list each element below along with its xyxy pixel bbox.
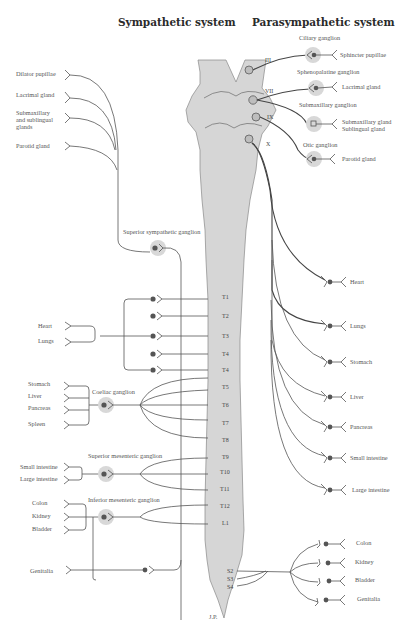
- svg-text:T12: T12: [220, 503, 230, 509]
- sphenopalatine-group: Sphenopalatine ganglion Lacrimal gland: [257, 68, 381, 100]
- svg-text:Sphincter pupillae: Sphincter pupillae: [340, 51, 386, 58]
- svg-text:Submaxillary ganglion: Submaxillary ganglion: [299, 101, 357, 108]
- svg-text:Sublingual gland: Sublingual gland: [342, 125, 386, 132]
- svg-text:T9: T9: [222, 454, 229, 460]
- sympathetic-lungs-label: Lungs: [38, 337, 54, 344]
- svg-text:Bladder: Bladder: [355, 576, 376, 583]
- vagus-targets: Heart Lungs Stomach Liver Pancreas Small…: [321, 276, 390, 495]
- svg-text:Lungs: Lungs: [350, 322, 366, 329]
- sacral-outflow: Colon Kidney Bladder Genitalia: [237, 539, 380, 606]
- svg-text:S2: S2: [227, 568, 233, 574]
- vagus-nerve-branches: [252, 143, 325, 488]
- svg-text:Sphenopalatine ganglion: Sphenopalatine ganglion: [297, 68, 360, 75]
- sympathetic-title: Sympathetic system: [118, 16, 236, 28]
- svg-text:Submaxillary: Submaxillary: [16, 109, 51, 116]
- inferior-mesenteric-group: Inferior mesenteric ganglion Colon Kidne…: [32, 496, 208, 580]
- svg-text:L1: L1: [222, 520, 229, 526]
- svg-text:Pancreas: Pancreas: [350, 423, 373, 430]
- svg-text:S3: S3: [227, 576, 233, 582]
- svg-text:T4: T4: [222, 367, 229, 373]
- svg-text:Colon: Colon: [356, 539, 372, 546]
- svg-text:Parotid gland: Parotid gland: [16, 142, 51, 149]
- svg-text:Spleen: Spleen: [28, 420, 46, 427]
- svg-text:Genitalia: Genitalia: [357, 595, 380, 602]
- svg-text:Kidney: Kidney: [32, 512, 51, 519]
- svg-text:Small intestine: Small intestine: [350, 454, 388, 461]
- svg-text:S4: S4: [227, 584, 233, 590]
- svg-text:T7: T7: [222, 420, 229, 426]
- svg-text:T5: T5: [222, 384, 229, 390]
- svg-text:T3: T3: [222, 333, 229, 339]
- svg-text:T2: T2: [222, 313, 229, 319]
- svg-text:Inferior mesenteric ganglion: Inferior mesenteric ganglion: [88, 496, 161, 503]
- svg-text:T11: T11: [220, 486, 229, 492]
- svg-text:T8: T8: [222, 437, 229, 443]
- autonomic-nervous-system-diagram: Sympathetic system Parasympathetic syste…: [0, 0, 409, 639]
- svg-text:Heart: Heart: [350, 278, 364, 285]
- svg-text:Kidney: Kidney: [355, 558, 374, 565]
- svg-text:Superior mesenteric ganglion: Superior mesenteric ganglion: [88, 452, 163, 459]
- nucleus-IX: [252, 113, 260, 121]
- submaxillary-group: Submaxillary ganglion Submaxillary gland…: [257, 100, 392, 132]
- svg-text:Small intestine: Small intestine: [20, 463, 58, 470]
- svg-text:and sublingual: and sublingual: [16, 116, 53, 123]
- superior-mesenteric-group: Superior mesenteric ganglion Small intes…: [20, 452, 208, 490]
- nucleus-VII: [249, 96, 257, 104]
- label-VII: VII: [265, 88, 273, 94]
- sympathetic-heart-label: Heart: [38, 322, 52, 329]
- svg-text:Stomach: Stomach: [350, 358, 373, 365]
- sympathetic-head-targets: Dilator pupillae Lacrimal gland Submaxil…: [16, 70, 150, 252]
- svg-text:Large intestine: Large intestine: [352, 486, 390, 493]
- svg-text:Stomach: Stomach: [28, 380, 51, 387]
- label-X: X: [266, 141, 271, 147]
- svg-text:T1: T1: [222, 294, 229, 300]
- svg-text:Dilator pupillae: Dilator pupillae: [16, 70, 56, 77]
- svg-text:Bladder: Bladder: [32, 525, 53, 532]
- label-IX: IX: [267, 114, 274, 120]
- thoracic-chain-ganglia: [100, 295, 208, 374]
- svg-text:Lacrimal gland: Lacrimal gland: [16, 91, 55, 98]
- svg-text:Otic ganglion: Otic ganglion: [303, 141, 338, 148]
- svg-text:T6: T6: [222, 402, 229, 408]
- svg-text:Pancreas: Pancreas: [28, 404, 51, 411]
- parasympathetic-title: Parasympathetic system: [252, 16, 395, 28]
- svg-text:T4: T4: [222, 351, 229, 357]
- svg-text:Liver: Liver: [350, 393, 365, 400]
- spinal-cord: [186, 60, 276, 618]
- svg-text:Submaxillary gland: Submaxillary gland: [342, 118, 392, 125]
- svg-text:Large intestine: Large intestine: [20, 475, 58, 482]
- svg-text:Coeliac ganglion: Coeliac ganglion: [92, 388, 136, 395]
- ciliary-group: Ciliary ganglion Sphincter pupillae: [253, 34, 386, 70]
- artist-signature: J.P.: [209, 613, 218, 620]
- nucleus-III: [245, 66, 253, 74]
- svg-text:Parotid gland: Parotid gland: [342, 155, 377, 162]
- superior-sympathetic-ganglion-label: Superior sympathetic ganglion: [123, 228, 201, 235]
- svg-text:glands: glands: [16, 123, 33, 130]
- sympathetic-genitalia-label: Genitalia: [30, 567, 53, 574]
- svg-text:Ciliary ganglion: Ciliary ganglion: [299, 34, 341, 41]
- nucleus-X: [245, 135, 253, 143]
- svg-text:T10: T10: [220, 469, 230, 475]
- svg-text:Colon: Colon: [32, 499, 48, 506]
- svg-text:Liver: Liver: [28, 392, 43, 399]
- svg-text:Lacrimal gland: Lacrimal gland: [342, 83, 381, 90]
